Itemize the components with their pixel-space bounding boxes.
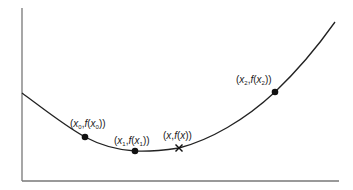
diagram-canvas — [0, 0, 353, 190]
point-x0-marker — [82, 134, 89, 141]
label-point-x2: (x2,f(x2)) — [236, 75, 272, 86]
label-point-x: (x,f(x)) — [163, 131, 192, 141]
paren: )) — [99, 118, 106, 129]
label-point-x1: (x1,f(x1)) — [114, 136, 150, 147]
paren: )) — [265, 74, 272, 85]
paren: )) — [185, 130, 192, 141]
point-x1-marker — [132, 148, 139, 155]
paren: )) — [143, 135, 150, 146]
label-point-x0: (x0,f(x0)) — [70, 119, 106, 130]
point-x2-marker — [272, 89, 279, 96]
